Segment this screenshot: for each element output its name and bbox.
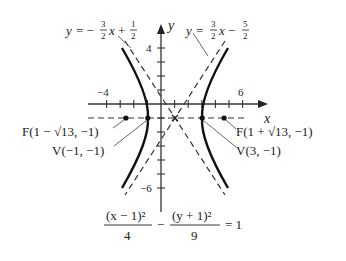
focus-left-label: F(1 − √13, −1) <box>22 124 99 139</box>
focus-left-point <box>123 115 128 120</box>
y-axis-label: y <box>166 18 175 33</box>
focus-right-label: F(1 + √13, −1) <box>236 124 313 139</box>
hyperbola-equation: (x − 1)² 4 − (y + 1)² 9 = 1 <box>104 208 242 243</box>
svg-text:−: − <box>157 217 164 232</box>
svg-text:+: + <box>118 23 125 38</box>
asymptote-left-label: y = − 3 2 x + 1 2 <box>64 19 137 41</box>
vertex-left-point <box>145 115 150 120</box>
y-tick-label-4: 4 <box>146 42 152 54</box>
svg-text:= −: = − <box>76 23 94 38</box>
x-tick-label-6: 6 <box>238 86 244 98</box>
vertex-left-label: V(−1, −1) <box>52 143 104 158</box>
svg-text:=: = <box>196 23 203 38</box>
svg-text:4: 4 <box>124 228 131 243</box>
svg-text:3: 3 <box>101 19 106 29</box>
svg-text:2: 2 <box>101 31 106 41</box>
focus-right-point <box>222 115 227 120</box>
vertex-right-label: V(3, −1) <box>236 143 281 158</box>
svg-text:−: − <box>228 23 235 38</box>
svg-text:= 1: = 1 <box>225 217 242 232</box>
svg-text:1: 1 <box>131 19 136 29</box>
svg-text:5: 5 <box>243 19 248 29</box>
svg-text:2: 2 <box>243 31 248 41</box>
svg-text:(y + 1)²: (y + 1)² <box>172 208 211 223</box>
x-tick-label-neg4: −4 <box>97 86 109 98</box>
vertex-right-point <box>200 115 205 120</box>
svg-text:9: 9 <box>191 228 198 243</box>
y-axis-arrow-icon <box>157 24 165 34</box>
y-tick-label-neg6: −6 <box>140 182 152 194</box>
svg-text:3: 3 <box>211 19 216 29</box>
svg-text:(x − 1)²: (x − 1)² <box>106 208 145 223</box>
svg-text:2: 2 <box>131 31 136 41</box>
svg-text:x: x <box>218 23 225 38</box>
svg-text:y: y <box>64 23 72 38</box>
svg-text:x: x <box>108 23 115 38</box>
x-axis-arrow-icon <box>258 100 268 108</box>
hyperbola-diagram: −4 6 4 −6 x y F(1 − √13, −1) V(−1, −1) F… <box>0 0 346 261</box>
asymptote-right-label: y = 3 2 x − 5 2 <box>184 19 249 41</box>
svg-text:2: 2 <box>211 31 216 41</box>
svg-text:y: y <box>184 23 192 38</box>
